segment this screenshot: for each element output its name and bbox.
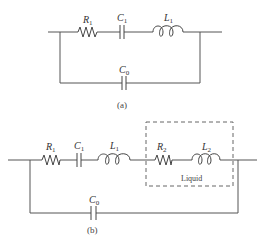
circuit-b: R1 C1 L1 Liquid R2 L2 C0 (b)	[8, 122, 257, 235]
inductor-l1-icon	[98, 154, 130, 165]
capacitor-c1-icon	[77, 153, 81, 167]
capacitor-c1-icon	[120, 25, 124, 39]
label-r1: R1	[45, 141, 56, 154]
label-c0: C0	[89, 194, 100, 207]
label-r1: R1	[82, 14, 93, 27]
label-c1: C1	[74, 140, 85, 153]
resistor-r1-icon	[42, 155, 60, 165]
inductor-l2-icon	[192, 154, 220, 165]
label-l2: L2	[201, 141, 212, 154]
label-l1: L1	[109, 140, 120, 153]
circuit-diagram: R1 C1 L1 C0 (a) R1	[0, 0, 267, 240]
caption-a: (a)	[117, 100, 127, 110]
caption-b: (b)	[87, 225, 98, 235]
resistor-r1-icon	[78, 27, 97, 37]
capacitor-c0-icon	[122, 76, 126, 90]
liquid-label: Liquid	[181, 174, 202, 183]
resistor-r2-icon	[155, 155, 172, 165]
capacitor-c0-icon	[91, 206, 96, 220]
label-l1: L1	[163, 12, 174, 25]
label-r2: R2	[156, 141, 167, 154]
label-c1: C1	[117, 12, 128, 25]
circuit-a: R1 C1 L1 C0 (a)	[48, 12, 222, 110]
label-c0: C0	[119, 64, 130, 77]
inductor-l1-icon	[153, 26, 183, 37]
